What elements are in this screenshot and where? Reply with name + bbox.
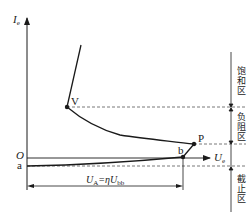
x-axis-label: Ue [214, 152, 225, 165]
characteristic-curve [27, 45, 194, 166]
point-v-label: V [71, 96, 79, 107]
region-label-cutoff: 截止区 [236, 174, 245, 204]
region-bracket [229, 52, 233, 212]
curve-points [65, 105, 196, 159]
region-label-saturation: 饱和区 [236, 66, 245, 96]
point-p-label: P [198, 133, 204, 144]
y-axis-label: Ie [13, 14, 20, 27]
y-axis-label-sub: e [17, 19, 20, 27]
point-a-label: a [17, 160, 22, 171]
region-label-negative-resistance: 负阻区 [236, 112, 245, 142]
point-p [192, 142, 196, 146]
point-v [65, 105, 69, 109]
ua-label-sub-bb: bb [117, 179, 124, 187]
characteristic-diagram [0, 0, 252, 220]
x-axis-label-main: U [214, 151, 222, 163]
ua-dimension-label: UA=ηUbb [86, 175, 124, 187]
point-b-label: b [178, 145, 184, 156]
ua-label-eta: =η [98, 174, 110, 185]
x-axis-label-sub: e [222, 157, 225, 165]
